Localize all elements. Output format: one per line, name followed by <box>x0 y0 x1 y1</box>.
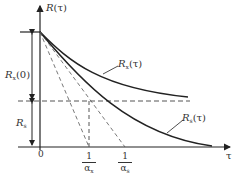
rs-label: Rs <box>16 118 27 129</box>
tangent-line-1 <box>40 32 89 147</box>
origin-label: 0 <box>38 150 44 159</box>
tangent-line-2 <box>40 32 125 147</box>
lower-curve <box>40 32 212 146</box>
y-axis-label: R(τ) <box>46 3 67 13</box>
x-axis-label: τ <box>226 151 232 161</box>
x-tick-1-over-alpha-x: 1 αx <box>82 152 96 174</box>
x-tick-1-over-alpha-s: 1 αs <box>118 152 132 174</box>
rx0-label: Rx(0) <box>5 70 30 81</box>
upper-curve <box>40 32 188 97</box>
upper-curve-label: Rx(τ) <box>118 59 142 70</box>
upper-curve-leader <box>103 66 118 74</box>
correlation-function-diagram: R(τ) τ 0 Rx(0) Rs Rx(τ) Rs(τ) 1 αx 1 αs <box>0 0 238 181</box>
lower-curve-leader <box>167 120 183 133</box>
lower-curve-label: Rs(τ) <box>182 113 206 124</box>
